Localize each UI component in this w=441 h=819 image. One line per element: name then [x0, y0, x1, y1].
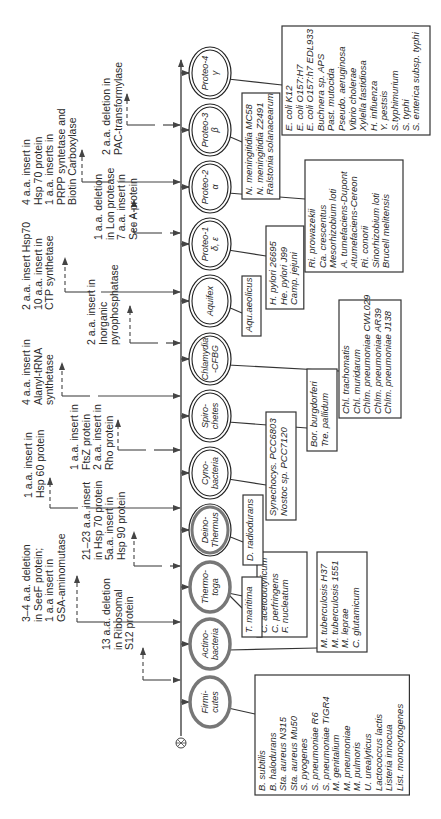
label-line: Thermus: [210, 512, 220, 548]
label-line: Pseudo. aeruginosa: [336, 46, 347, 131]
label-line: Proteo-3: [200, 113, 210, 148]
indel-phylogeny-diagram: 13 a.a. deletionin RibosomalS12 protein3…: [0, 0, 441, 819]
indel-label: 4 a.a. insert inHsp 70 protein1 a.a. ins…: [20, 108, 78, 205]
label-line: -CFBG: [210, 345, 220, 373]
label-line: M. leprae: [339, 608, 350, 648]
label-line: S. pyogenes: [298, 738, 309, 791]
indel-label: 2 a.a. deletion inPAC-transformylase: [100, 62, 124, 155]
label-line: List. monocytogenes: [394, 704, 405, 791]
taxon-node-aquifex: Aquifex: [181, 275, 231, 327]
label-line: Buchnera sp. APS: [315, 53, 326, 131]
label-line: 2 a.a. insert in: [91, 404, 103, 470]
indel-label: 1 a.a. deletionin Lon protease7 a.a. ins…: [92, 167, 139, 240]
label-line: bacteria: [210, 457, 220, 489]
label-line: 5a.a. insert in: [103, 497, 115, 560]
label-line: Biotin Carboxylase: [66, 117, 78, 205]
label-line: A. tumefaciens-Dupont: [338, 171, 349, 269]
label-line: S. typhi: [400, 98, 411, 131]
label-line: Thermo-: [200, 570, 210, 604]
indel-label: 1 a.a. insert inHsp 60 protein: [22, 430, 46, 498]
label-line: Lactococcus lactis: [373, 714, 384, 791]
taxon-label: Actino-bacteria: [200, 628, 220, 660]
label-line: FtsZ protein: [80, 414, 92, 470]
label-line: 2 a.a. insert in: [85, 279, 97, 345]
label-line: Chlm. pneumoniae AR39: [372, 307, 383, 414]
label-line: in Ribosomal: [112, 589, 124, 650]
label-line: S. pneumoniae TIGR4: [320, 696, 331, 791]
label-line: M. pneumoniae: [341, 726, 352, 791]
indel-annotation: 13 a.a. deletionin RibosomalS12 protein: [100, 578, 180, 680]
label-line: Sinorhizobium loti: [370, 192, 381, 268]
label-line: Listeria innocua: [383, 724, 394, 791]
connector-line: [228, 708, 255, 714]
taxa-circles: Firmi-cutesActino-bacteriaThermo-togaDei…: [181, 47, 231, 727]
label-line: D. radiodurans: [244, 498, 255, 561]
species-boxes: B. subtilisB. haloduransSta. aureus N315…: [242, 26, 430, 795]
taxon-node-firmicutes: Firmi-cutes: [181, 677, 230, 727]
label-line: N. meningitidia MC58: [243, 103, 254, 195]
label-line: Inorganic: [97, 302, 109, 345]
label-line: PAC-transformylase: [112, 62, 124, 155]
species-list: Aqu.aeolicus: [243, 277, 254, 333]
label-line: C. perfringens: [269, 573, 280, 633]
label-line: E. coli K12: [283, 85, 294, 131]
indel-annotation: 4 a.a. insert inAlanyl-tRNAsynthetase: [20, 339, 180, 405]
indel-annotation: 2 a.a. insert inInorganicpyrophosphatase: [85, 264, 180, 345]
species-box-actinobacteria: M. tuberculosis H37M. tuberculosis 1551M…: [317, 552, 367, 652]
label-line: M. tuberculosis 1551: [329, 560, 340, 648]
label-line: Nostoc sp. PCC7120: [278, 427, 289, 516]
label-line: Hsp 90 protein: [115, 492, 127, 560]
label-line: M. pulmoris: [351, 742, 362, 791]
label-line: Alanyl-tRNA: [32, 348, 44, 405]
species-box-proteo2: Ri. prowazekiiCa. crescentusMesorhizobiu…: [305, 160, 403, 272]
label-line: Bor. burgdorferi: [308, 380, 319, 447]
label-line: Past. mutocida: [325, 68, 336, 131]
diagram-canvas: 13 a.a. deletionin RibosomalS12 protein3…: [0, 0, 441, 819]
connector-line: [228, 250, 266, 256]
label-line: Ralstonia solanacearum: [264, 93, 275, 195]
label-line: PRPP syntetase and: [55, 108, 67, 205]
label-line: Cyno-: [200, 461, 210, 485]
species-box-aquifex: Aqu.aeolicus: [242, 276, 261, 336]
species-box-thermotoga: C. acetobutylicumC. perfringensF. nuclea…: [257, 552, 307, 637]
label-line: Synechocys. PCC6803: [267, 418, 278, 516]
label-line: 3–4 a.a. deletion: [20, 544, 32, 622]
label-line: S. enterica subsp. typhi: [410, 31, 421, 131]
indel-label: 4 a.a. insert inAlanyl-tRNAsynthetase: [20, 339, 55, 405]
indel-label: 21–23 a.a. insertin Hsp 70 protein5a.a. …: [80, 480, 127, 560]
label-line: 21–23 a.a. insert: [80, 482, 92, 560]
species-list: Synechocys. PCC6803Nostoc sp. PCC7120: [267, 418, 289, 516]
taxon-label: Cyno-bacteria: [200, 457, 220, 489]
taxon-node-proteo2: Proteo-2α: [181, 161, 231, 213]
label-line: 1 a.a. inserts in: [43, 134, 55, 205]
label-line: Chlm. pneumoniae CWL029: [361, 294, 372, 414]
label-line: Hsp 60 protein: [34, 430, 46, 498]
taxon-node-spirochetes: Spiro-chetes: [181, 390, 231, 442]
label-line: S12 protein: [123, 596, 135, 650]
label-line: δ, ε: [210, 236, 220, 251]
label-line: Proteo-4: [200, 56, 210, 91]
taxon-node-actinobacteria: Actino-bacteria: [181, 619, 230, 669]
label-line: Actino-: [200, 630, 210, 659]
label-line: H. pylori 26695: [267, 240, 278, 305]
label-line: GSA-aminomutase: [55, 533, 67, 622]
label-line: Deino-: [200, 517, 210, 544]
taxon-node-proteo1: Proteo-1δ, ε: [181, 218, 231, 270]
label-line: F. nucleatum: [279, 579, 290, 633]
species-box-chlamydia: Chl. trachomatisChl. muridarumChlm. pneu…: [339, 294, 401, 418]
label-line: Sec A protein: [127, 178, 139, 240]
connector-line: [228, 648, 317, 650]
label-line: 13 a.a. deletion: [100, 578, 112, 650]
label-line: in Hsp 70 protein: [92, 480, 104, 560]
taxon-label: Deino-Thermus: [200, 512, 220, 548]
label-line: E. coli O157:H7: [294, 64, 305, 131]
connector-line: [228, 479, 266, 485]
label-line: 7 a.a. insert in: [115, 174, 127, 240]
label-line: S. pneumoniae R6: [309, 712, 320, 791]
label-line: chetes: [210, 402, 220, 429]
species-box-proteo1: H. pylori 26695He. pylori J99Camp. jejun…: [266, 226, 304, 309]
taxon-node-proteo3: Proteo-3β: [181, 104, 231, 156]
species-box-proteo4: E. coli K12E. coli O157:H7E. coli O157:h…: [282, 26, 430, 135]
indel-annotation: 21–23 a.a. insertin Hsp 70 protein5a.a. …: [80, 480, 180, 566]
label-line: S.typhimurium: [389, 70, 400, 131]
